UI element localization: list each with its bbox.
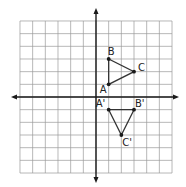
triangle-abc-prime: A'B'C' [96,98,145,148]
x-axis-left-arrow-icon [11,95,17,100]
vertex-label: C [138,62,145,73]
x-axis-right-arrow-icon [173,95,179,100]
vertex-label: C' [122,137,132,148]
vertex-point-a-prime [107,108,111,112]
vertex-point-b [107,57,111,61]
vertex-label: A' [96,98,106,109]
vertex-point-a [107,82,111,86]
coordinate-grid-diagram: ABC A'B'C' [0,0,186,187]
vertex-point-c [132,70,136,74]
y-axis-bottom-arrow-icon [94,177,99,183]
vertex-label: B [108,46,115,57]
axes [11,8,179,183]
triangle-abc: ABC [100,46,145,95]
y-axis-top-arrow-icon [94,8,99,14]
vertex-label: B' [135,98,145,109]
vertex-label: A [100,84,107,95]
